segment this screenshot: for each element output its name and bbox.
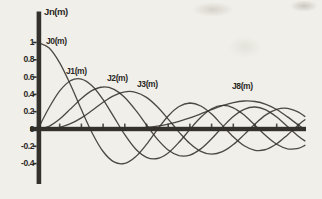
x-axis-tick: [81, 124, 83, 128]
y-tick-label-1: 1: [4, 37, 34, 47]
curve-j1m: [38, 79, 305, 159]
x-axis-tick: [233, 124, 235, 128]
bessel-curves-plot: [0, 0, 322, 199]
x-axis-tick: [102, 124, 104, 128]
y-tick-label--0.4: -0.4: [4, 158, 34, 168]
curve-label-j3: J3(m): [137, 79, 158, 89]
curve-j0m: [38, 43, 305, 164]
curve-j2m: [38, 87, 305, 156]
bessel-function-figure: Jn(m) J0(m) J1(m) J2(m) J3(m) J8(m) 10.8…: [0, 0, 322, 199]
x-axis-tick: [124, 124, 126, 128]
curve-label-j8: J8(m): [232, 81, 253, 91]
y-tick-label-0: 0: [4, 124, 34, 134]
y-tick-label--0.2: -0.2: [4, 141, 34, 151]
y-tick-label-0.4: 0.4: [4, 89, 34, 99]
chart-title: Jn(m): [44, 6, 68, 17]
y-tick-label-0.8: 0.8: [4, 54, 34, 64]
y-axis-line: [37, 12, 42, 185]
y-tick-label-0.6: 0.6: [4, 72, 34, 82]
x-axis-tick: [189, 124, 191, 128]
curve-label-j0: J0(m): [46, 36, 67, 46]
curve-label-j1: J1(m): [66, 66, 87, 76]
y-tick-label-0.2: 0.2: [4, 106, 34, 116]
curve-label-j2: J2(m): [107, 73, 128, 83]
x-axis-tick: [276, 124, 278, 128]
x-axis-tick: [211, 124, 213, 128]
